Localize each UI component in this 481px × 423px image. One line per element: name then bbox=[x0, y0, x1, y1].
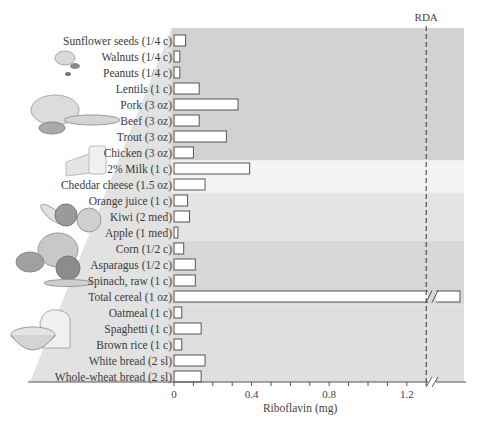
category-label: 2% Milk (1 c) bbox=[107, 163, 172, 176]
category-label: Oatmeal (1 c) bbox=[109, 307, 172, 320]
category-label: Chicken (3 oz) bbox=[104, 147, 173, 160]
category-label: Cheddar cheese (1.5 oz) bbox=[61, 179, 172, 192]
bar-11 bbox=[174, 211, 190, 222]
nuts-illustration bbox=[55, 51, 80, 76]
bar-7 bbox=[174, 147, 193, 158]
category-label: Kiwi (2 med) bbox=[110, 211, 172, 224]
bar-14 bbox=[174, 259, 195, 270]
bar-16 bbox=[174, 291, 460, 302]
bar-18 bbox=[174, 323, 201, 334]
cheese-milk-illustration bbox=[66, 146, 106, 176]
bread-cereal-illustration bbox=[11, 310, 70, 350]
category-label: White bread (2 sl) bbox=[89, 355, 173, 368]
rda-label: RDA bbox=[415, 11, 438, 23]
tick-label: 0 bbox=[171, 388, 177, 400]
bar-5 bbox=[174, 115, 199, 126]
category-label: Sunflower seeds (1/4 c) bbox=[63, 35, 172, 48]
category-label: Lentils (1 c) bbox=[116, 83, 172, 96]
bar-21 bbox=[174, 371, 201, 382]
category-label: Trout (3 oz) bbox=[117, 131, 172, 144]
category-label: Spinach, raw (1 c) bbox=[88, 275, 172, 288]
bar-3 bbox=[174, 83, 199, 94]
bar-2 bbox=[174, 67, 180, 78]
tick-label: 1.2 bbox=[400, 388, 414, 400]
bar-8 bbox=[174, 163, 250, 174]
bar-13 bbox=[174, 243, 184, 254]
category-label: Beef (3 oz) bbox=[120, 115, 172, 128]
bar-17 bbox=[174, 307, 182, 318]
bar-12 bbox=[174, 227, 178, 238]
bar-4 bbox=[174, 99, 238, 110]
x-axis-title: Riboflavin (mg) bbox=[263, 402, 338, 415]
bar-20 bbox=[174, 355, 205, 366]
category-label: Pork (3 oz) bbox=[120, 99, 172, 112]
x-axis: 00.40.81.2Riboflavin (mg) bbox=[28, 377, 466, 415]
bar-15 bbox=[174, 275, 195, 286]
band-grains bbox=[172, 305, 464, 383]
category-label: Orange juice (1 c) bbox=[89, 195, 173, 208]
bar-19 bbox=[174, 339, 182, 350]
category-label: Brown rice (1 c) bbox=[96, 339, 172, 352]
riboflavin-bar-chart: Sunflower seeds (1/4 c)Walnuts (1/4 c)Pe… bbox=[0, 0, 481, 423]
category-label: Apple (1 med) bbox=[105, 227, 172, 240]
bar-9 bbox=[174, 179, 205, 190]
band-fruits bbox=[172, 193, 464, 241]
category-label: Corn (1/2 c) bbox=[116, 243, 172, 256]
category-label: Asparagus (1/2 c) bbox=[90, 259, 172, 272]
bar-6 bbox=[174, 131, 226, 142]
category-label: Walnuts (1/4 c) bbox=[101, 51, 172, 64]
tick-label: 0.4 bbox=[245, 388, 259, 400]
bar-0 bbox=[174, 35, 186, 46]
meat-fish-illustration bbox=[31, 95, 120, 134]
tick-label: 0.8 bbox=[322, 388, 336, 400]
category-label: Total cereal (1 oz) bbox=[88, 291, 172, 304]
food-group-bands bbox=[172, 28, 464, 382]
category-label: Peanuts (1/4 c) bbox=[103, 67, 172, 80]
category-label: Spaghetti (1 c) bbox=[104, 323, 172, 336]
bar-10 bbox=[174, 195, 188, 206]
bar-1 bbox=[174, 51, 180, 62]
